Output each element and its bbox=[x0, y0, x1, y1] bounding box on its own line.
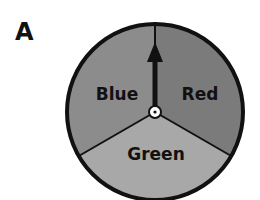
sector-label-blue: Blue bbox=[96, 84, 138, 104]
sector-label-red: Red bbox=[182, 84, 219, 104]
spinner: Blue Red Green bbox=[0, 0, 260, 200]
sector-label-green: Green bbox=[127, 144, 185, 164]
